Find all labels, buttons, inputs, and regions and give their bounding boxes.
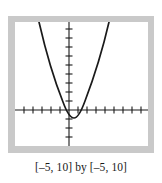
figure-caption: [–5, 10] by [–5, 10] [0,161,162,173]
plot-area [15,22,148,146]
parabola-curve [39,22,109,118]
graph-canvas [15,22,148,146]
graphing-calculator-figure: [–5, 10] by [–5, 10] [0,0,162,183]
plot-frame [8,16,154,153]
